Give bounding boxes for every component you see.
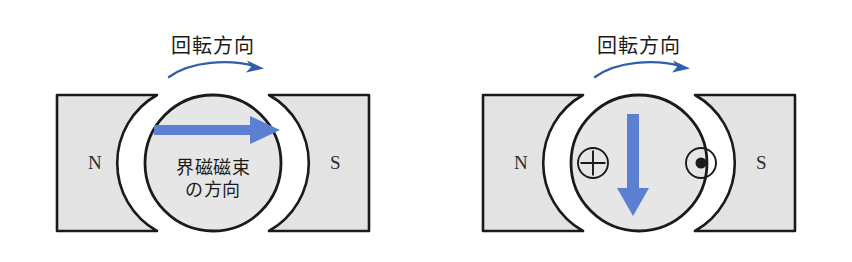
current-out-of-page-icon [683,145,719,181]
pole-label-south: S [330,152,341,174]
flux-direction-arrow-icon [152,113,282,147]
flux-caption-line-2: の方向 [133,179,293,201]
force-direction-arrow-icon [613,112,653,218]
panel-left: 回転方向 N S 界磁磁束 の方向 [0,0,426,262]
current-into-page-icon [575,145,611,181]
pole-label-south: S [756,152,767,174]
flux-direction-caption: 界磁磁束 の方向 [133,157,293,201]
flux-caption-line-1: 界磁磁束 [133,157,293,179]
rotation-direction-arrow-icon [589,55,699,85]
rotation-direction-arrow-icon [163,55,273,85]
pole-label-north: N [514,152,528,174]
pole-label-north: N [88,152,102,174]
magnet-armature-figure: 回転方向 N S 界磁磁束 の方向 [0,0,852,262]
